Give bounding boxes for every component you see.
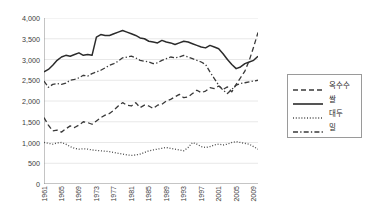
legend-label: 쌀 xyxy=(329,95,336,105)
x-tick-label: 1997 xyxy=(198,186,205,202)
x-tick-label: 1989 xyxy=(163,186,170,202)
chart-figure: 05001,0001,5002,0002,5003,0003,5004,000 … xyxy=(0,0,380,223)
x-tick-label: 2005 xyxy=(233,186,240,202)
legend-item-1[interactable]: 옥수수 xyxy=(292,79,358,93)
y-tick-label: 4,000 xyxy=(22,14,40,23)
x-tick-label: 1993 xyxy=(180,186,187,202)
legend-label: 옥수수 xyxy=(329,81,350,91)
x-tick-label: 1977 xyxy=(110,186,117,202)
x-tick-label: 1969 xyxy=(75,186,82,202)
y-tick-label: 2,000 xyxy=(22,97,40,106)
x-tick-label: 2009 xyxy=(250,186,257,202)
x-tick-label: 1965 xyxy=(58,186,65,202)
y-tick-label: 1,500 xyxy=(22,117,40,126)
x-tick-label: 1973 xyxy=(93,186,100,202)
chart-legend: 옥수수쌀대두밀 xyxy=(287,74,362,138)
x-tick-label: 1985 xyxy=(145,186,152,202)
x-axis-tick-labels: 1961196519691973197719811985198919931997… xyxy=(44,186,264,223)
y-tick-label: 2,500 xyxy=(22,76,40,85)
x-tick-label: 1981 xyxy=(128,186,135,202)
y-tick-label: 3,000 xyxy=(22,55,40,64)
x-tick-label: 1961 xyxy=(41,186,48,202)
y-tick-label: 500 xyxy=(28,159,40,168)
legend-key-dashdot xyxy=(292,123,324,133)
y-tick-label: 3,500 xyxy=(22,34,40,43)
legend-key-solid xyxy=(292,95,324,105)
x-tick-label: 2001 xyxy=(215,186,222,202)
legend-item-3[interactable]: 대두 xyxy=(292,107,358,121)
plot-area xyxy=(44,18,258,184)
y-axis-tick-labels: 05001,0001,5002,0002,5003,0003,5004,000 xyxy=(0,18,40,184)
legend-item-2[interactable]: 쌀 xyxy=(292,93,358,107)
legend-item-4[interactable]: 밀 xyxy=(292,121,358,135)
data-series-2 xyxy=(44,30,258,71)
data-series-1 xyxy=(44,33,258,133)
y-tick-label: 1,000 xyxy=(22,138,40,147)
y-tick-label: 0 xyxy=(36,180,40,189)
chart-canvas xyxy=(44,18,258,184)
legend-key-dashed xyxy=(292,81,324,91)
legend-label: 대두 xyxy=(329,109,343,119)
legend-key-dotted xyxy=(292,109,324,119)
data-series-3 xyxy=(44,142,258,156)
legend-label: 밀 xyxy=(329,123,336,133)
